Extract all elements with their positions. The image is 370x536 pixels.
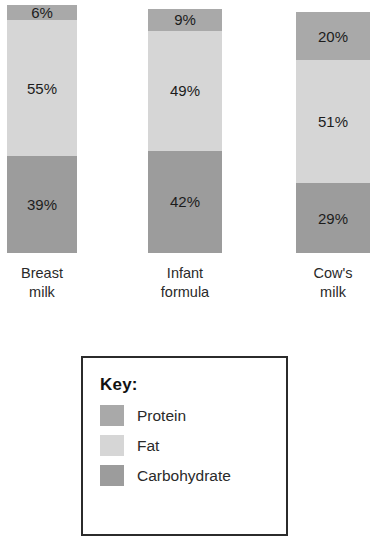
segment-value-label: 9% [174,12,196,27]
bar-segment-fat[interactable]: 51% [296,60,370,183]
category-label-breast-milk: Breast milk [21,264,63,301]
segment-value-label: 55% [27,81,57,96]
bar-segment-protein[interactable]: 6% [7,5,77,20]
legend-label-protein: Protein [137,408,186,424]
bar-group-breast-milk: 6% 55% 39% Breast milk [7,5,77,253]
bar-segment-carbohydrate[interactable]: 42% [148,151,222,253]
category-label-line2: milk [313,283,352,302]
legend-title: Key: [100,376,286,393]
legend-swatch-carbohydrate-icon [100,465,124,486]
category-label-line2: formula [161,283,209,302]
bar-segment-carbohydrate[interactable]: 39% [7,156,77,253]
segment-value-label: 49% [170,83,200,98]
bar-group-infant-formula: 9% 49% 42% Infant formula [148,9,222,253]
bar-segment-protein[interactable]: 20% [296,12,370,60]
stacked-bar-chart: 6% 55% 39% Breast milk 9% 49% 42% [0,0,358,330]
stacked-bar: 9% 49% 42% [148,9,222,253]
segment-value-label: 42% [170,194,200,209]
segment-value-label: 39% [27,197,57,212]
legend-item-protein[interactable]: Protein [100,405,286,426]
legend-label-fat: Fat [137,438,159,454]
legend-label-carbohydrate: Carbohydrate [137,468,231,484]
bar-segment-carbohydrate[interactable]: 29% [296,183,370,253]
bar-segment-fat[interactable]: 55% [7,20,77,156]
category-label-infant-formula: Infant formula [161,264,209,301]
segment-value-label: 51% [318,114,348,129]
legend-swatch-fat-icon [100,435,124,456]
category-label-cows-milk: Cow's milk [313,264,352,301]
segment-value-label: 20% [318,29,348,44]
category-label-line2: milk [21,283,63,302]
bar-group-cows-milk: 20% 51% 29% Cow's milk [296,12,370,253]
category-label-line1: Breast [21,264,63,283]
legend-swatch-protein-icon [100,405,124,426]
chart-legend-key: Key: Protein Fat Carbohydrate [81,356,288,536]
legend-item-fat[interactable]: Fat [100,435,286,456]
bar-segment-protein[interactable]: 9% [148,9,222,31]
legend-item-carbohydrate[interactable]: Carbohydrate [100,465,286,486]
bar-segment-fat[interactable]: 49% [148,31,222,151]
segment-value-label: 6% [31,5,53,20]
stacked-bar: 6% 55% 39% [7,5,77,253]
category-label-line1: Infant [161,264,209,283]
stacked-bar: 20% 51% 29% [296,12,370,253]
category-label-line1: Cow's [313,264,352,283]
segment-value-label: 29% [318,211,348,226]
